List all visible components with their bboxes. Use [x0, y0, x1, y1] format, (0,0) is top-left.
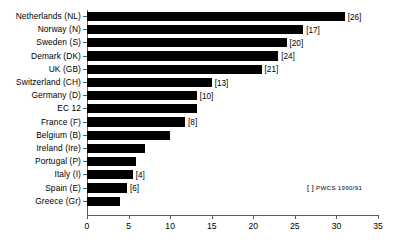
bar-value-label: [21]	[265, 63, 279, 76]
bar	[87, 25, 303, 34]
bar-row: France (F)[8]	[87, 116, 378, 129]
x-axis-tick	[87, 215, 88, 219]
bar-chart: Netherlands (NL)[26]Norway (N)[17]Sweden…	[0, 0, 394, 249]
bar	[87, 157, 136, 166]
bar-row: Demark (DK)[24]	[87, 50, 378, 63]
bar-row: Italy (I)[4]	[87, 168, 378, 181]
bar-row: Portugal (P)	[87, 155, 378, 168]
category-label: Ireland (Ire)	[36, 142, 81, 155]
bar	[87, 183, 127, 192]
x-axis-tick	[170, 215, 171, 219]
x-axis-tick-label: 0	[85, 221, 90, 231]
category-label: EC 12	[57, 102, 81, 115]
bar-value-label: [26]	[348, 11, 362, 24]
category-label: Belgium (B)	[36, 129, 81, 142]
bar-row: Netherlands (NL)[26]	[87, 10, 378, 23]
bar	[87, 91, 197, 100]
bar	[87, 104, 197, 113]
bar	[87, 38, 287, 47]
x-axis-tick-label: 20	[249, 221, 259, 231]
bar-row: Sweden (S)[20]	[87, 36, 378, 49]
x-axis-line	[87, 215, 378, 216]
x-axis-tick	[336, 215, 337, 219]
bar	[87, 144, 145, 153]
legend-bracket-symbol: [ ]	[307, 183, 314, 192]
category-label: Demark (DK)	[31, 50, 81, 63]
bar	[87, 117, 185, 126]
x-axis-tick-label: 15	[207, 221, 217, 231]
category-label: Switzerland (CH)	[16, 76, 81, 89]
category-label: Spain (E)	[45, 182, 81, 195]
x-axis-tick-label: 25	[290, 221, 300, 231]
legend-label: PWCS 1990/91	[316, 184, 362, 191]
bar	[87, 78, 212, 87]
x-axis-tick	[129, 215, 130, 219]
category-label: Germany (D)	[32, 89, 82, 102]
x-axis-tick	[295, 215, 296, 219]
category-label: Greece (Gr)	[35, 195, 81, 208]
category-label: Netherlands (NL)	[16, 10, 81, 23]
category-label: Sweden (S)	[36, 36, 81, 49]
bar	[87, 51, 278, 60]
x-axis-tick	[212, 215, 213, 219]
category-label: Portugal (P)	[35, 155, 81, 168]
category-label: UK (GB)	[49, 63, 81, 76]
bar-row: Greece (Gr)	[87, 195, 378, 208]
bar-row: Switzerland (CH)[13]	[87, 76, 378, 89]
x-axis-tick-label: 30	[332, 221, 342, 231]
x-axis-tick	[253, 215, 254, 219]
category-label: France (F)	[41, 116, 81, 129]
x-axis-tick-label: 10	[165, 221, 175, 231]
bar-row: Ireland (Ire)	[87, 142, 378, 155]
bar-row: UK (GB)[21]	[87, 63, 378, 76]
x-axis-tick-label: 5	[126, 221, 131, 231]
bar-value-label: [8]	[188, 116, 197, 129]
bar-value-label: [10]	[200, 90, 214, 103]
legend-note: [ ] PWCS 1990/91	[307, 183, 362, 192]
bar	[87, 12, 345, 21]
category-label: Norway (N)	[38, 23, 81, 36]
bar-value-label: [4]	[136, 169, 145, 182]
bar-value-label: [24]	[281, 50, 295, 63]
bar-row: Norway (N)[17]	[87, 23, 378, 36]
bar-value-label: [17]	[306, 24, 320, 37]
bar	[87, 170, 133, 179]
bar-row: EC 12	[87, 102, 378, 115]
bar-row: Germany (D)[10]	[87, 89, 378, 102]
bar	[87, 65, 262, 74]
x-axis-tick	[378, 215, 379, 219]
category-label: Italy (I)	[55, 168, 82, 181]
x-axis-tick-label: 35	[373, 221, 383, 231]
bar	[87, 131, 170, 140]
bar-value-label: [20]	[290, 37, 304, 50]
bar-value-label: [6]	[130, 182, 139, 195]
bar-row: Belgium (B)	[87, 129, 378, 142]
bar-value-label: [13]	[215, 77, 229, 90]
bar	[87, 197, 120, 206]
